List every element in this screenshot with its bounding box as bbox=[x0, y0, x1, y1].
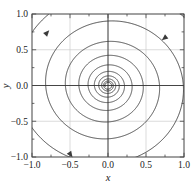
x-tick-labels: −1.0−0.50.00.51.0 bbox=[23, 160, 190, 170]
y-axis-title: y bbox=[0, 83, 11, 89]
x-axis-title: x bbox=[105, 172, 111, 183]
x-tick-label: 1.0 bbox=[178, 160, 190, 170]
x-tick-label: 0.0 bbox=[102, 160, 114, 170]
phase-portrait-plot: −1.0−0.50.00.51.0 −1.0−0.50.00.51.0 x y bbox=[0, 0, 196, 188]
y-tick-label: 1.0 bbox=[16, 9, 28, 19]
figure-container: −1.0−0.50.00.51.0 −1.0−0.50.00.51.0 x y bbox=[0, 0, 196, 188]
y-tick-labels: −1.0−0.50.00.51.0 bbox=[11, 9, 28, 162]
x-tick-label: 0.5 bbox=[140, 160, 152, 170]
y-tick-label: −0.5 bbox=[11, 117, 28, 127]
y-tick-label: 0.0 bbox=[16, 81, 28, 91]
y-tick-label: −1.0 bbox=[11, 152, 28, 162]
y-tick-label: 0.5 bbox=[16, 45, 28, 55]
x-tick-label: −0.5 bbox=[61, 160, 78, 170]
